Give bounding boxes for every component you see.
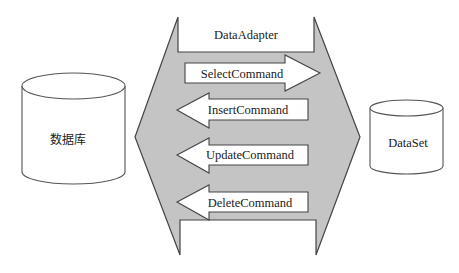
data-adapter-label: DataAdapter [214,28,279,42]
dataset-label: DataSet [388,136,428,150]
diagram-canvas: DataAdapter SelectCommand InsertCommand … [0,0,459,273]
delete-command-label: DeleteCommand [208,196,293,210]
select-command-label: SelectCommand [201,67,284,81]
data-adapter-shape [135,17,360,255]
database-cylinder-icon [22,73,125,184]
insert-command-label: InsertCommand [208,103,289,117]
update-command-label: UpdateCommand [206,148,295,162]
database-label: 数据库 [50,132,86,147]
